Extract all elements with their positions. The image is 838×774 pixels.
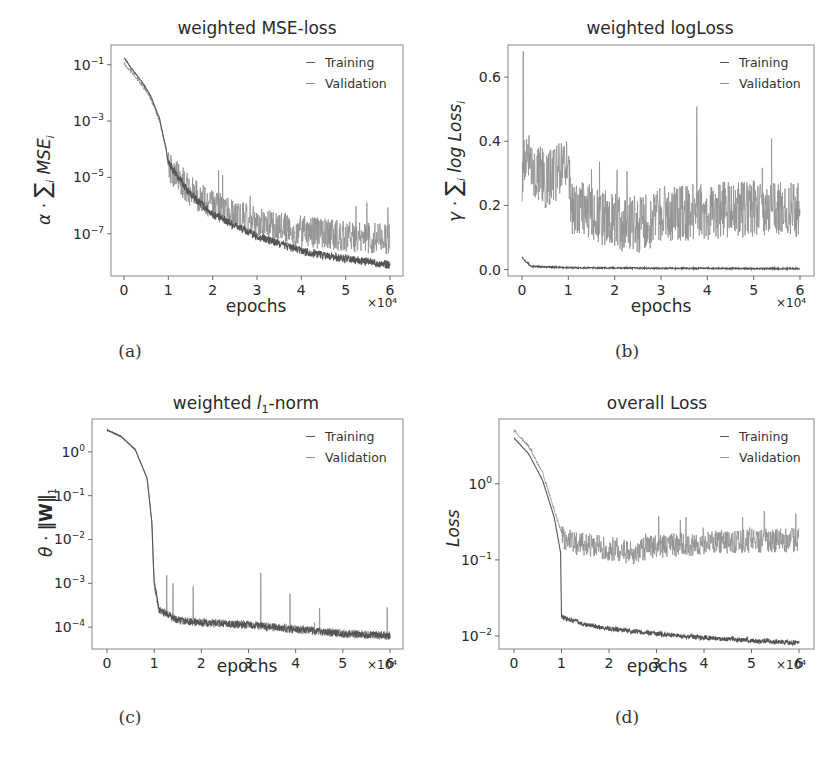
subfigure-caption: (b) xyxy=(615,341,639,361)
legend-swatch-validation xyxy=(306,457,315,458)
y-axis-label: γ · ∑i log Lossi xyxy=(441,101,467,222)
x-tick-label: 1 xyxy=(557,655,566,671)
y-tick-label: 10−3 xyxy=(54,574,85,591)
legend-swatch-validation xyxy=(306,83,315,84)
legend-swatch-training xyxy=(720,62,729,63)
y-tick-label: 100 xyxy=(468,475,492,492)
legend-label-validation: Validation xyxy=(739,447,801,468)
x-tick-label: 1 xyxy=(564,282,573,298)
x-tick-label: 5 xyxy=(338,655,347,671)
y-tick-label: 0.0 xyxy=(479,262,501,278)
y-tick-label: 10−3 xyxy=(73,112,104,129)
x-tick-label: 1 xyxy=(164,282,173,298)
y-axis-label: α · ∑i MSEi xyxy=(30,136,56,225)
legend: Training Validation xyxy=(720,52,801,94)
x-axis-label: epochs xyxy=(217,656,278,676)
y-tick-label: 10−1 xyxy=(73,56,104,73)
legend-label-training: Training xyxy=(739,426,788,447)
legend-label-validation: Validation xyxy=(325,447,387,468)
legend-swatch-training xyxy=(306,62,315,63)
y-tick-label: 10−4 xyxy=(54,618,85,635)
subfigure-caption: (a) xyxy=(118,341,141,361)
y-tick-label: 10−2 xyxy=(461,627,492,644)
y-tick-label: 10−2 xyxy=(54,530,85,547)
y-axis-label: Loss xyxy=(443,509,463,547)
panel-a: weighted MSE-loss 012345610−110−310−510−… xyxy=(0,0,419,387)
legend-swatch-training xyxy=(720,436,729,437)
subfigure-caption: (d) xyxy=(615,707,639,727)
x-tick-label: 0 xyxy=(518,282,527,298)
x-tick-label: 5 xyxy=(341,282,350,298)
legend-swatch-training xyxy=(306,436,315,437)
y-tick-label: 100 xyxy=(61,443,85,460)
x-tick-label: 2 xyxy=(197,655,206,671)
x-tick-label: 4 xyxy=(297,282,306,298)
x-tick-label: 2 xyxy=(605,655,614,671)
x-axis-label: epochs xyxy=(226,296,287,316)
legend: Training Validation xyxy=(306,52,387,94)
legend-swatch-validation xyxy=(720,457,729,458)
x-axis-multiplier: ×10⁴ xyxy=(776,296,806,310)
panel-d: overall Loss 012345610010−110−2 Training… xyxy=(419,387,838,774)
x-tick-label: 0 xyxy=(103,655,112,671)
legend: Training Validation xyxy=(306,426,387,468)
x-tick-label: 4 xyxy=(291,655,300,671)
y-tick-label: 10−1 xyxy=(54,487,85,504)
panel-c: weighted l1-norm 012345610010−110−210−31… xyxy=(0,387,419,774)
x-axis-multiplier: ×10⁴ xyxy=(776,658,806,672)
x-tick-label: 5 xyxy=(747,655,756,671)
training-line xyxy=(522,257,800,269)
y-tick-label: 10−5 xyxy=(73,168,104,185)
y-tick-label: 10−1 xyxy=(461,551,492,568)
subfigure-caption: (c) xyxy=(119,707,142,727)
legend-label-training: Training xyxy=(325,52,374,73)
x-tick-label: 5 xyxy=(749,282,758,298)
x-tick-label: 0 xyxy=(120,282,129,298)
y-tick-label: 10−7 xyxy=(73,225,104,242)
y-axis-label: θ · ‖W‖1 xyxy=(36,488,58,557)
legend-label-training: Training xyxy=(325,426,374,447)
x-tick-label: 2 xyxy=(610,282,619,298)
x-tick-label: 4 xyxy=(700,655,709,671)
x-axis-multiplier: ×10⁴ xyxy=(367,296,397,310)
legend-label-training: Training xyxy=(739,52,788,73)
legend-label-validation: Validation xyxy=(325,73,387,94)
legend-swatch-validation xyxy=(720,83,729,84)
y-tick-label: 0.4 xyxy=(479,133,501,149)
panel-b: weighted logLoss 01234560.00.20.40.6 Tra… xyxy=(419,0,838,387)
x-axis-label: epochs xyxy=(631,296,692,316)
x-tick-label: 1 xyxy=(150,655,159,671)
legend-label-validation: Validation xyxy=(739,73,801,94)
legend: Training Validation xyxy=(720,426,801,468)
x-tick-label: 2 xyxy=(208,282,217,298)
y-tick-label: 0.6 xyxy=(479,69,501,85)
x-tick-label: 4 xyxy=(703,282,712,298)
x-axis-multiplier: ×10⁴ xyxy=(367,658,397,672)
y-tick-label: 0.2 xyxy=(479,197,501,213)
x-axis-label: epochs xyxy=(627,656,688,676)
x-tick-label: 0 xyxy=(510,655,519,671)
